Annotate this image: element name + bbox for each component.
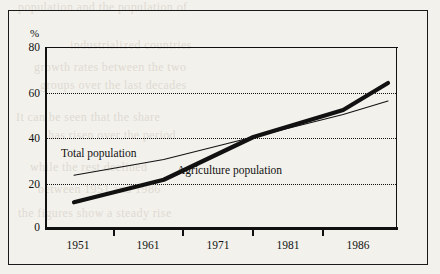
chart-page: population and the population of industr… — [0, 0, 440, 274]
annotation-total-population: Total population — [61, 148, 137, 160]
annotation-agriculture-population: Agriculture population — [177, 165, 282, 177]
data-series-layer — [0, 0, 440, 274]
